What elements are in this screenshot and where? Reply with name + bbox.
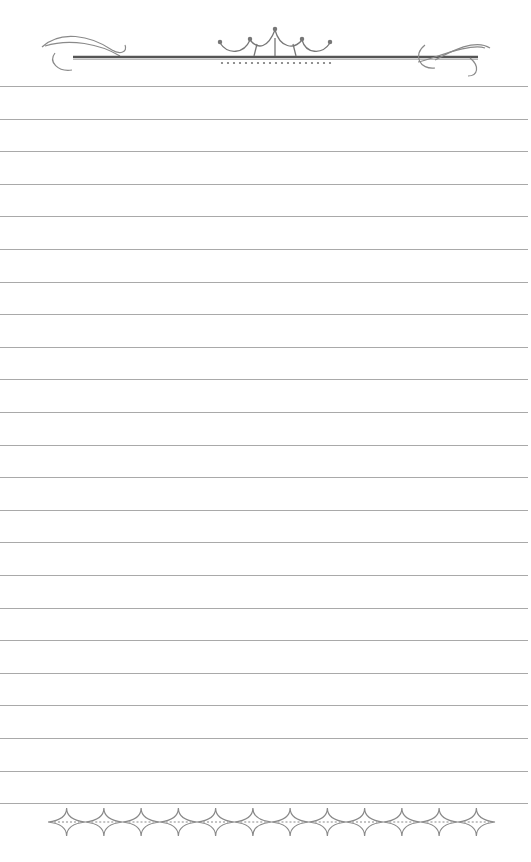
ruled-line	[0, 151, 528, 152]
ruled-line	[0, 673, 528, 674]
ruled-line	[0, 184, 528, 185]
lined-paper-page	[0, 0, 531, 862]
ruled-line	[0, 314, 528, 315]
ruled-line	[0, 216, 528, 217]
ruled-line	[0, 738, 528, 739]
ruled-line	[0, 86, 528, 87]
ruled-line	[0, 282, 528, 283]
ruled-line	[0, 347, 528, 348]
ruled-line	[0, 379, 528, 380]
ruled-lines	[0, 0, 531, 862]
ruled-line	[0, 705, 528, 706]
ruled-line	[0, 119, 528, 120]
ruled-line	[0, 445, 528, 446]
ruled-line	[0, 510, 528, 511]
ruled-line	[0, 477, 528, 478]
ruled-line	[0, 249, 528, 250]
ruled-line	[0, 575, 528, 576]
ruled-line	[0, 608, 528, 609]
footer-diamond-border	[0, 800, 531, 862]
ruled-line	[0, 542, 528, 543]
ruled-line	[0, 640, 528, 641]
ruled-line	[0, 412, 528, 413]
ruled-line	[0, 771, 528, 772]
